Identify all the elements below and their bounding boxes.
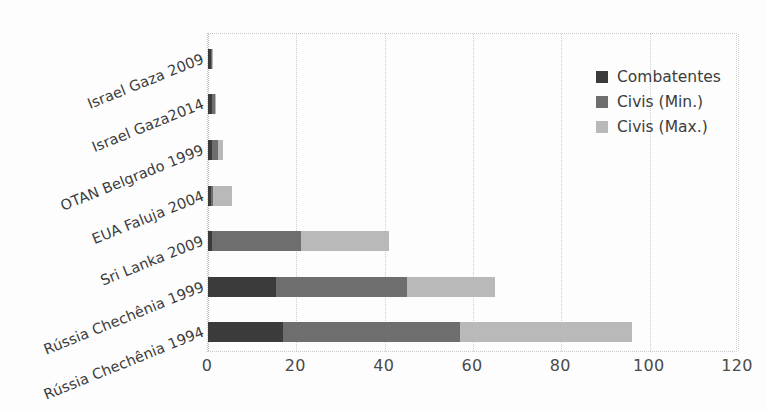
bar-segment-civis-min (212, 231, 300, 251)
bar-segment-civis-min (276, 277, 406, 297)
bar-segment-civis-max (460, 322, 632, 342)
bar-segment-civis-max (218, 140, 223, 160)
bar-segment-civis-max (301, 231, 389, 251)
bar-row (208, 140, 223, 160)
gridline (473, 34, 474, 351)
x-axis: 020406080100120 (207, 356, 737, 386)
legend-label: Civis (Max.) (617, 118, 708, 136)
gridline (561, 34, 562, 351)
bar-row (208, 277, 495, 297)
legend-item[interactable]: Combatentes (596, 64, 746, 89)
x-tick-label: 80 (550, 356, 571, 375)
bar-segment-civis-min (283, 322, 460, 342)
legend-swatch-icon (596, 96, 608, 108)
x-tick-label: 40 (373, 356, 394, 375)
bar-row (208, 231, 389, 251)
bar-segment-civis-max (407, 277, 495, 297)
x-tick-label: 120 (721, 356, 752, 375)
x-tick-label: 0 (202, 356, 212, 375)
legend: CombatentesCivis (Min.)Civis (Max.) (596, 64, 746, 139)
legend-label: Combatentes (617, 68, 721, 86)
x-tick-label: 60 (462, 356, 483, 375)
bar-row (208, 322, 632, 342)
x-tick-label: 100 (633, 356, 664, 375)
stacked-bar-chart: Israel Gaza 2009Israel Gaza2014OTAN Belg… (0, 0, 766, 410)
bar-segment-combatentes (208, 277, 276, 297)
legend-item[interactable]: Civis (Min.) (596, 89, 746, 114)
legend-label: Civis (Min.) (617, 93, 703, 111)
gridline (385, 34, 386, 351)
legend-item[interactable]: Civis (Max.) (596, 114, 746, 139)
gridline (296, 34, 297, 351)
bar-segment-civis-max (212, 49, 213, 69)
legend-swatch-icon (596, 71, 608, 83)
bar-row (208, 186, 232, 206)
legend-swatch-icon (596, 121, 608, 133)
scan-artifact (0, 0, 766, 8)
x-tick-label: 20 (285, 356, 306, 375)
bar-segment-civis-max (213, 186, 232, 206)
bar-row (208, 49, 213, 69)
bar-segment-civis-max (215, 94, 216, 114)
bar-row (208, 94, 216, 114)
bar-segment-combatentes (208, 322, 283, 342)
